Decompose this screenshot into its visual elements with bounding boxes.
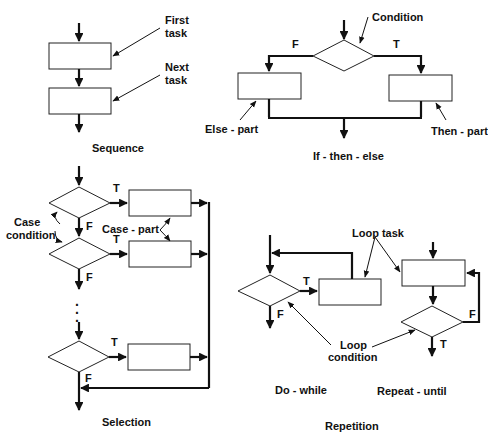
then-part-pointer xyxy=(436,103,446,120)
case-part-pointer-2 xyxy=(160,230,170,241)
false-branch-arrow xyxy=(269,56,313,71)
first-task-box xyxy=(49,43,111,69)
next-task-label-2: task xyxy=(165,74,188,86)
loop-task-pointer-1 xyxy=(365,237,375,277)
false-label: F xyxy=(292,38,299,50)
else-part-box xyxy=(238,73,301,99)
true-label-1: T xyxy=(113,182,120,194)
loop-condition-diamond xyxy=(238,275,300,306)
loop-task-pointer-2 xyxy=(375,237,400,272)
repeat-until-title: Repeat - until xyxy=(377,385,447,397)
then-part-label: Then - part xyxy=(431,125,488,137)
case-diamond-1 xyxy=(49,187,110,218)
condition-pointer xyxy=(360,17,368,43)
false-label: F xyxy=(277,308,284,320)
case-condition-pointer-1 xyxy=(55,212,60,224)
case-condition-pointer-2 xyxy=(55,231,62,242)
next-task-box xyxy=(49,88,111,114)
loop-condition-label-2: condition xyxy=(328,351,378,363)
case-diamond-n xyxy=(48,341,109,372)
false-label-1: F xyxy=(86,220,93,232)
true-branch-arrow xyxy=(374,56,421,73)
sequence-diagram: First task Next task Sequence xyxy=(49,14,189,154)
false-label: F xyxy=(469,308,476,320)
case-part-box-1 xyxy=(129,190,191,216)
do-while-title: Do - while xyxy=(275,384,327,396)
false-label-n: F xyxy=(85,372,92,384)
case-part-box-n xyxy=(128,344,190,370)
case-condition-label-2: condition xyxy=(6,229,56,241)
then-part-box xyxy=(389,75,452,101)
condition-label: Condition xyxy=(372,11,424,23)
true-label: T xyxy=(393,38,400,50)
if-then-else-title: If - then - else xyxy=(313,150,384,162)
false-label-2: F xyxy=(86,271,93,283)
true-label: T xyxy=(440,338,447,350)
true-label: T xyxy=(303,275,310,287)
case-condition-label-1: Case xyxy=(14,216,40,228)
loop-back-arrow xyxy=(272,253,352,279)
repeat-until-diagram: F T Repeat - until xyxy=(377,242,479,397)
case-part-pointer-1 xyxy=(160,218,170,230)
if-then-else-diagram: Condition F T Else - part Then - part If… xyxy=(205,11,488,162)
else-part-label: Else - part xyxy=(205,123,259,135)
selection-diagram: · · · T F T F T F Case condition Case - … xyxy=(6,166,209,428)
selection-title: Selection xyxy=(102,416,151,428)
case-part-label: Case - part xyxy=(102,223,159,235)
loop-condition-label-1: Loop xyxy=(340,339,367,351)
next-task-pointer xyxy=(113,75,160,101)
condition-diamond xyxy=(313,40,374,71)
loop-task-label: Loop task xyxy=(352,227,405,239)
loop-task-box xyxy=(402,260,465,286)
control-structures-diagram: First task Next task Sequence Condition … xyxy=(0,0,488,436)
next-task-label-1: Next xyxy=(165,61,189,73)
loop-condition-pointer-2 xyxy=(372,330,415,347)
case-part-box-2 xyxy=(129,241,191,267)
loop-task-box xyxy=(319,279,381,305)
loop-condition-pointer-1 xyxy=(288,302,331,345)
repetition-title: Repetition xyxy=(325,420,379,432)
first-task-label-1: First xyxy=(165,14,189,26)
case-diamond-2 xyxy=(49,238,110,269)
first-task-pointer xyxy=(113,28,160,56)
else-part-pointer xyxy=(240,101,256,120)
true-label-n: T xyxy=(111,336,118,348)
first-task-label-2: task xyxy=(165,27,188,39)
sequence-title: Sequence xyxy=(92,142,144,154)
do-while-diagram: T F Do - while xyxy=(238,235,381,396)
